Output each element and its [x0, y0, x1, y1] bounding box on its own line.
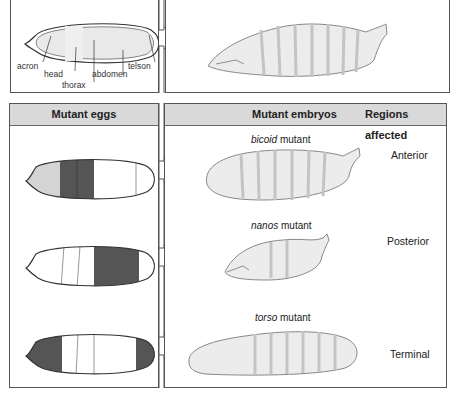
- mutant-embryos-panel: Mutant embryos Regions affected bicoid m…: [164, 103, 447, 388]
- label-abdomen: abdomen: [92, 69, 127, 79]
- bicoid-caption: bicoid mutant: [251, 134, 311, 145]
- wildtype-egg-panel: acron head thorax abdomen telson: [10, 0, 159, 93]
- wildtype-embryo: [206, 20, 406, 80]
- bicoid-region: Anterior: [391, 149, 428, 161]
- nanos-gene: nanos: [251, 220, 278, 231]
- nanos-caption: nanos mutant: [251, 220, 312, 231]
- label-telson: telson: [128, 61, 151, 71]
- bicoid-egg: [24, 159, 154, 201]
- regions-affected-title: Regions affected: [365, 104, 446, 146]
- nanos-egg: [24, 246, 154, 288]
- mutant-eggs-header: Mutant eggs: [10, 104, 158, 126]
- mutant-eggs-title: Mutant eggs: [52, 108, 117, 120]
- wildtype-embryo-panel: [165, 0, 450, 93]
- label-head: head: [44, 69, 63, 79]
- torso-egg: [24, 334, 154, 376]
- bicoid-embryo: [203, 146, 373, 206]
- mutant-embryos-header: Mutant embryos Regions affected: [165, 104, 446, 126]
- nanos-embryo: [223, 234, 353, 284]
- bicoid-suffix: mutant: [280, 134, 311, 145]
- nanos-region: Posterior: [387, 235, 429, 247]
- torso-gene: torso: [255, 312, 277, 323]
- torso-embryo: [185, 328, 365, 378]
- torso-suffix: mutant: [280, 312, 311, 323]
- mutant-eggs-panel: Mutant eggs: [9, 103, 159, 388]
- label-thorax: thorax: [62, 80, 86, 90]
- nanos-suffix: mutant: [281, 220, 312, 231]
- torso-region: Terminal: [390, 348, 430, 360]
- mutant-embryos-title: Mutant embryos: [252, 104, 337, 125]
- label-acron: acron: [17, 61, 38, 71]
- bicoid-gene: bicoid: [251, 134, 277, 145]
- torso-caption: torso mutant: [255, 312, 311, 323]
